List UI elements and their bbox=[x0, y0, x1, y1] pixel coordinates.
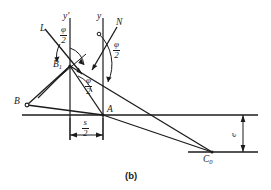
segment-B-A bbox=[27, 105, 103, 115]
point-C0-subscript: 0 bbox=[209, 158, 212, 165]
angle-label-phi-half-middle: φ 2 bbox=[85, 76, 92, 96]
segment-B1-lower-left-extension bbox=[38, 66, 70, 98]
angle-label-phi-half-upper-left: φ 2 bbox=[60, 25, 67, 45]
ray-L-label: L bbox=[40, 24, 45, 34]
angle-denominator: 2 bbox=[60, 36, 67, 45]
point-C0-label: C0 bbox=[203, 155, 213, 165]
axis-y-prime-label: y' bbox=[63, 12, 69, 22]
point-B1-label: B1 bbox=[53, 60, 62, 70]
figure-caption: (b) bbox=[125, 170, 137, 181]
dim-arrow-bottom bbox=[241, 145, 246, 152]
angle-numerator: φ bbox=[60, 25, 67, 34]
angle-denominator: 2 bbox=[113, 51, 120, 60]
point-B-label: B bbox=[14, 97, 20, 107]
angle-numerator: φ bbox=[113, 40, 120, 49]
dim-arrow-right bbox=[96, 133, 103, 138]
angle-arc-phi-half-upper-right bbox=[99, 34, 112, 82]
dim-numerator: s bbox=[82, 118, 89, 127]
dim-denominator: 2 bbox=[82, 129, 89, 138]
point-marker-C0 bbox=[211, 151, 214, 154]
point-marker-B bbox=[25, 103, 29, 107]
axis-y-label: y bbox=[97, 12, 101, 22]
point-A-label: A bbox=[107, 105, 113, 115]
segment-A-C0 bbox=[103, 115, 212, 152]
dim-label-vertical: e bbox=[228, 133, 238, 137]
ray-N-label: N bbox=[116, 18, 122, 28]
ray-N-arrowhead bbox=[92, 64, 97, 70]
dim-label-s-half: s 2 bbox=[82, 118, 89, 138]
angle-numerator: φ bbox=[85, 76, 92, 85]
dim-arrow-top bbox=[241, 115, 246, 122]
point-B1-subscript: 1 bbox=[59, 63, 62, 70]
angle-label-phi-half-upper-right: φ 2 bbox=[113, 40, 120, 60]
point-B1-letter: B bbox=[53, 59, 59, 69]
dim-arrow-left bbox=[70, 133, 77, 138]
angle-denominator: 2 bbox=[85, 87, 92, 96]
figure-container: L y' y N B1 B A C0 φ 2 φ 2 φ 2 s 2 e (b) bbox=[0, 0, 271, 190]
point-marker-N-vertex bbox=[97, 32, 101, 36]
point-marker-B1 bbox=[68, 64, 71, 67]
point-marker-A bbox=[102, 114, 105, 117]
